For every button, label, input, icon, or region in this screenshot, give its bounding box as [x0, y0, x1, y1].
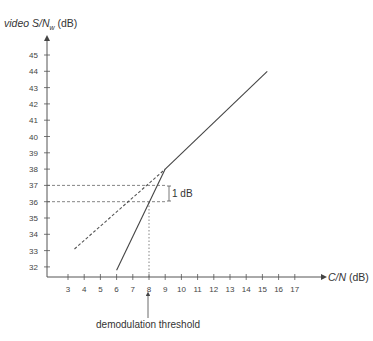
- x-tick-label: 17: [290, 285, 299, 294]
- x-tick-label: 5: [98, 285, 103, 294]
- x-tick-label: 8: [147, 285, 152, 294]
- y-tick-label: 41: [29, 116, 38, 125]
- one-db-label: 1 dB: [172, 188, 193, 199]
- one-db-annotation: 1 dB: [167, 186, 193, 201]
- y-tick-label: 42: [29, 100, 38, 109]
- x-tick-label: 16: [274, 285, 283, 294]
- x-tick-label: 4: [82, 285, 87, 294]
- y-tick-label: 45: [29, 51, 38, 60]
- x-tick-label: 9: [163, 285, 168, 294]
- y-tick-label: 35: [29, 214, 38, 223]
- series-lines: [74, 71, 267, 270]
- y-tick-label: 36: [29, 198, 38, 207]
- series-line: [74, 169, 165, 249]
- series-line: [165, 71, 267, 169]
- threshold-label: demodulation threshold: [96, 319, 200, 330]
- y-tick-label: 37: [29, 181, 38, 190]
- x-tick-label: 15: [258, 285, 267, 294]
- y-tick-label: 38: [29, 165, 38, 174]
- series-line: [117, 169, 166, 270]
- y-tick-label: 44: [29, 67, 38, 76]
- reference-lines: [47, 185, 165, 277]
- x-tick-label: 6: [114, 285, 119, 294]
- y-tick-label: 33: [29, 247, 38, 256]
- x-tick-label: 14: [242, 285, 251, 294]
- x-tick-label: 13: [226, 285, 235, 294]
- y-tick-label: 43: [29, 84, 38, 93]
- y-tick-label: 34: [29, 230, 38, 239]
- x-tick-label: 10: [177, 285, 186, 294]
- x-tick-label: 11: [193, 285, 202, 294]
- x-axis-title: C/N (dB): [328, 271, 369, 283]
- y-tick-label: 40: [29, 133, 38, 142]
- chart: 3233343536373839404142434445 34567891011…: [0, 0, 373, 341]
- threshold-annotation: demodulation threshold: [96, 294, 200, 330]
- y-tick-label: 32: [29, 263, 38, 272]
- y-tick-label: 39: [29, 149, 38, 158]
- x-tick-label: 3: [66, 285, 71, 294]
- x-tick-label: 12: [209, 285, 218, 294]
- x-tick-label: 7: [131, 285, 136, 294]
- y-axis-title: video S/Nw (dB): [4, 17, 77, 31]
